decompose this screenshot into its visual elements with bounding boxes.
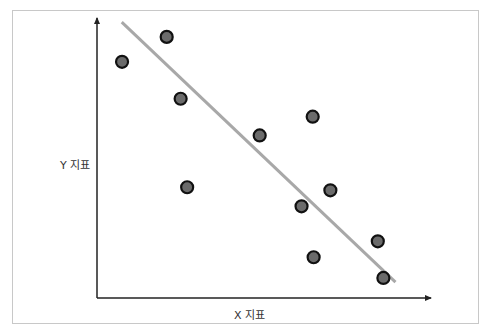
data-points [116, 31, 389, 284]
data-point [181, 181, 193, 193]
x-axis-label: X 지표 [234, 306, 265, 322]
data-point [175, 93, 187, 105]
data-point [116, 56, 128, 68]
data-point [254, 129, 266, 141]
data-point [372, 235, 384, 247]
y-axis-label: Y 지표 [60, 156, 90, 172]
data-point [324, 184, 336, 196]
data-point [296, 200, 308, 212]
trendline [122, 22, 396, 282]
data-point [307, 111, 319, 123]
data-point [161, 31, 173, 43]
data-point [308, 251, 320, 263]
regression-line [122, 22, 396, 282]
data-point [377, 272, 389, 284]
